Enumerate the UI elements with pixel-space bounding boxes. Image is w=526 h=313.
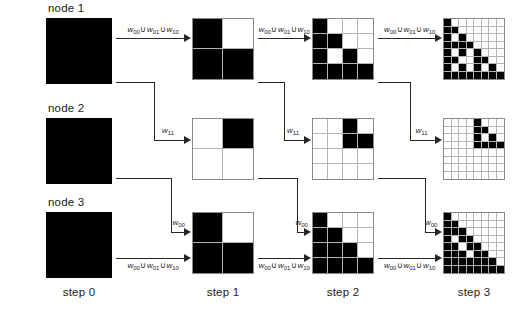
grid-node2-step2 bbox=[312, 118, 374, 180]
operator-subscript: 01 bbox=[409, 265, 416, 271]
cell-r3-c4 bbox=[358, 149, 373, 164]
cell-r2-c4 bbox=[467, 127, 475, 135]
cell-r3-c4 bbox=[358, 243, 373, 258]
operator-subscript: 10 bbox=[429, 29, 436, 35]
cell-r6-c5 bbox=[474, 251, 482, 259]
cell-r2-c2 bbox=[328, 228, 343, 243]
cell-r6-c3 bbox=[459, 157, 467, 165]
cell-r3-c6 bbox=[482, 228, 490, 236]
union-symbol: ∪ bbox=[140, 261, 147, 270]
cell-r5-c2 bbox=[452, 149, 460, 157]
cell-r1-c3 bbox=[343, 119, 358, 134]
cell-r5-c8 bbox=[497, 49, 505, 57]
cell-r3-c5 bbox=[474, 228, 482, 236]
cell-r3-c4 bbox=[358, 49, 373, 64]
cell-r8-c7 bbox=[489, 266, 497, 274]
cell-r2-c1 bbox=[193, 49, 223, 79]
cell-r8-c6 bbox=[482, 72, 490, 80]
arrow-segment bbox=[378, 38, 435, 39]
cell-r8-c6 bbox=[482, 266, 490, 274]
cell-r7-c6 bbox=[482, 164, 490, 172]
operator-subscript: 10 bbox=[429, 265, 436, 271]
arrow-label-node3b-step0: w00∪w01∪w10 bbox=[128, 261, 179, 271]
cell-r5-c2 bbox=[452, 243, 460, 251]
cell-r2-c3 bbox=[459, 27, 467, 35]
cell-r1-c4 bbox=[358, 19, 373, 34]
cell-r4-c4 bbox=[358, 64, 373, 79]
cell-r6-c2 bbox=[452, 57, 460, 65]
cell-r2-c6 bbox=[482, 127, 490, 135]
cell-r8-c3 bbox=[459, 266, 467, 274]
cell-r4-c1 bbox=[313, 258, 328, 273]
cell-r6-c6 bbox=[482, 157, 490, 165]
cell-r5-c1 bbox=[444, 243, 452, 251]
column-label-step2: step 2 bbox=[312, 286, 374, 298]
cell-r4-c3 bbox=[343, 258, 358, 273]
cell-r7-c4 bbox=[467, 164, 475, 172]
cell-r2-c8 bbox=[497, 221, 505, 229]
cell-r4-c5 bbox=[474, 236, 482, 244]
cell-r8-c8 bbox=[497, 172, 505, 180]
cell-r7-c2 bbox=[452, 64, 460, 72]
grid-node3-step3 bbox=[443, 212, 505, 274]
cell-r4-c4 bbox=[467, 236, 475, 244]
cell-r4-c2 bbox=[452, 142, 460, 150]
cell-r8-c7 bbox=[489, 172, 497, 180]
cell-r6-c7 bbox=[489, 157, 497, 165]
cell-r1-c2 bbox=[328, 19, 343, 34]
cell-r8-c4 bbox=[467, 72, 475, 80]
cell-r3-c1 bbox=[444, 228, 452, 236]
cell-r4-c3 bbox=[459, 142, 467, 150]
cell-r3-c1 bbox=[444, 34, 452, 42]
cell-r2-c7 bbox=[489, 221, 497, 229]
cell-r7-c7 bbox=[489, 164, 497, 172]
cell-r5-c6 bbox=[482, 149, 490, 157]
arrow-segment bbox=[116, 178, 171, 179]
cell-r3-c3 bbox=[343, 243, 358, 258]
cell-r4-c4 bbox=[467, 142, 475, 150]
cell-r7-c3 bbox=[459, 258, 467, 266]
cell-r5-c3 bbox=[459, 243, 467, 251]
cell-r1-c7 bbox=[489, 119, 497, 127]
cell-r1-c8 bbox=[497, 19, 505, 27]
arrow-segment bbox=[425, 232, 435, 233]
cell-r2-c6 bbox=[482, 27, 490, 35]
cell-r5-c3 bbox=[459, 49, 467, 57]
cell-r6-c2 bbox=[452, 157, 460, 165]
cell-r2-c8 bbox=[497, 27, 505, 35]
row-label-node3: node 3 bbox=[48, 196, 84, 208]
cell-r5-c5 bbox=[474, 243, 482, 251]
cell-r3-c2 bbox=[328, 149, 343, 164]
arrow-segment bbox=[116, 258, 184, 259]
column-label-step3: step 3 bbox=[443, 286, 505, 298]
cell-r7-c7 bbox=[489, 64, 497, 72]
cell-r3-c3 bbox=[459, 134, 467, 142]
arrow-label-node1-step1: w00∪w01∪w10 bbox=[259, 25, 310, 35]
cell-r5-c3 bbox=[459, 149, 467, 157]
cell-r6-c1 bbox=[444, 157, 452, 165]
arrow-label-node1-step2: w00∪w01∪w10 bbox=[384, 25, 435, 35]
cell-r2-c3 bbox=[343, 228, 358, 243]
cell-r3-c4 bbox=[467, 134, 475, 142]
cell-r3-c3 bbox=[459, 228, 467, 236]
cell-r1-c6 bbox=[482, 213, 490, 221]
cell-r3-c3 bbox=[343, 49, 358, 64]
operator-subscript: 00 bbox=[133, 265, 140, 271]
cell-r5-c7 bbox=[489, 49, 497, 57]
cell-r5-c5 bbox=[474, 149, 482, 157]
cell-r4-c5 bbox=[474, 42, 482, 50]
union-symbol: ∪ bbox=[416, 261, 423, 270]
cell-r3-c1 bbox=[313, 243, 328, 258]
cell-r7-c7 bbox=[489, 258, 497, 266]
cell-r4-c1 bbox=[444, 42, 452, 50]
arrow-head bbox=[304, 228, 311, 236]
cell-r4-c7 bbox=[489, 142, 497, 150]
cell-r1-c2 bbox=[223, 119, 253, 149]
cell-r6-c6 bbox=[482, 57, 490, 65]
arrow-head bbox=[304, 136, 311, 144]
cell-r4-c8 bbox=[497, 142, 505, 150]
cell-r1-c7 bbox=[489, 213, 497, 221]
cell-r1-c1 bbox=[193, 19, 223, 49]
cell-r8-c1 bbox=[444, 172, 452, 180]
cell-r7-c2 bbox=[452, 258, 460, 266]
